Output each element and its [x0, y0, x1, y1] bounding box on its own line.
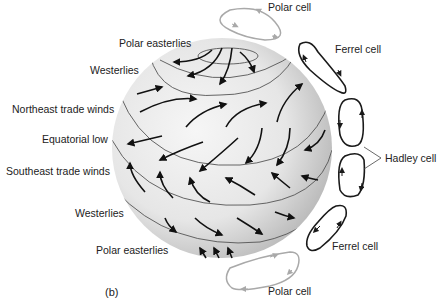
hadley-bracket	[364, 147, 381, 169]
label-ferrel-cell-south: Ferrel cell	[332, 241, 378, 252]
hadley-cell-south	[339, 154, 365, 197]
label-polar-cell-south: Polar cell	[268, 286, 311, 297]
label-hadley-cell: Hadley cell	[385, 153, 436, 164]
polar-cell-north	[220, 9, 281, 41]
hadley-cell-north	[339, 99, 364, 147]
label-westerlies-south: Westerlies	[75, 208, 124, 219]
label-polar-easterlies-south: Polar easterlies	[96, 245, 168, 256]
label-ferrel-cell-north: Ferrel cell	[335, 44, 381, 55]
label-northeast-trade-winds: Northeast trade winds	[12, 104, 114, 115]
global-circulation-diagram: Polar easterlies Westerlies Northeast tr…	[0, 0, 441, 301]
polar-cell-south	[226, 252, 299, 290]
label-polar-cell-north: Polar cell	[268, 2, 311, 13]
label-westerlies-north: Westerlies	[90, 65, 139, 76]
label-equatorial-low: Equatorial low	[42, 134, 108, 145]
earth-globe	[112, 38, 332, 258]
label-polar-easterlies-north: Polar easterlies	[119, 38, 191, 49]
panel-label: (b)	[105, 287, 118, 298]
label-southeast-trade-winds: Southeast trade winds	[6, 166, 110, 177]
